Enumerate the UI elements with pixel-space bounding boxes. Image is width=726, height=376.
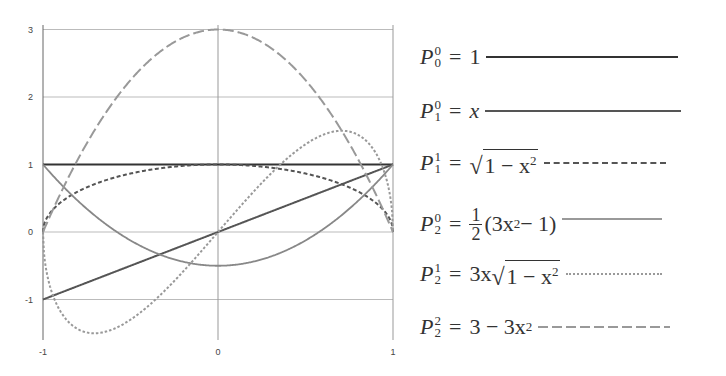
legend-line-solid-dark — [486, 56, 678, 58]
formula-p10: P 01 = x — [420, 98, 479, 124]
y-tick-label: 3 — [28, 25, 33, 35]
formula-p00: P 00 = 1 — [420, 44, 480, 70]
legend-item-p20: P 02 = 12 (3x2 − 1) — [420, 201, 662, 247]
legend-line-dashed-long — [538, 326, 670, 328]
legend-line-solid — [485, 110, 681, 112]
y-tick-label: 2 — [28, 92, 33, 102]
legendre-plot: 3210-1-101 — [0, 0, 410, 376]
x-tick-label: -1 — [39, 347, 47, 357]
legend-item-p00: P 00 = 1 — [420, 42, 678, 72]
formula-p20: P 02 = 12 (3x2 − 1) — [420, 206, 556, 243]
sqrt-sign: √1 − x2 — [491, 260, 560, 288]
formula-p21: P 12 = 3x √1 − x2 — [420, 260, 560, 288]
axes — [43, 25, 393, 340]
formula-p22: P 22 = 3 − 3x2 — [420, 314, 532, 340]
x-tick-label: 0 — [215, 347, 220, 357]
legend-line-dashed-short — [544, 162, 666, 164]
legend-item-p21: P 12 = 3x √1 − x2 — [420, 259, 662, 289]
y-tick-label: 1 — [28, 160, 33, 170]
legend-line-dotted — [566, 273, 662, 275]
y-tick-label: 0 — [28, 227, 33, 237]
legend-item-p10: P 01 = x — [420, 96, 681, 126]
legend-line-solid-light — [562, 218, 662, 220]
y-tick-label: -1 — [25, 295, 33, 305]
sqrt-sign: √1 − x2 — [469, 149, 538, 177]
formula-p11: P 11 = √1 − x2 — [420, 149, 538, 177]
legend-item-p22: P 22 = 3 − 3x2 — [420, 312, 670, 342]
x-tick-label: 1 — [390, 347, 395, 357]
legend-item-p11: P 11 = √1 − x2 — [420, 148, 666, 178]
fraction: 12 — [469, 206, 482, 243]
